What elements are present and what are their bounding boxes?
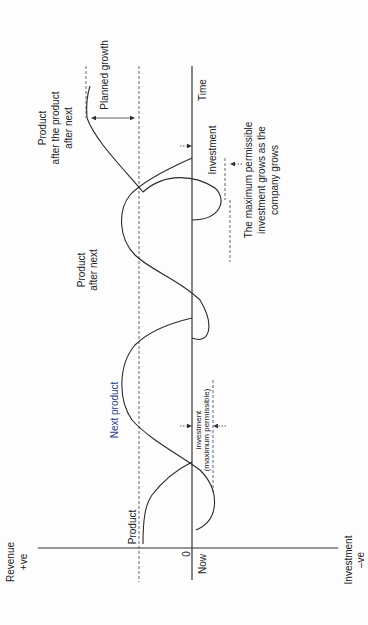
product-label: Product <box>127 510 138 545</box>
product-after-next-label-1: Product <box>76 253 87 288</box>
svg-text:Revenue: Revenue <box>5 542 16 582</box>
svg-text:Investment: Investment <box>343 535 354 584</box>
svg-text:–ve: –ve <box>355 552 366 569</box>
planned-growth-label: Planned growth <box>99 40 110 110</box>
investment-max-label-2: (maximum permissible) <box>202 388 211 471</box>
origin-label: 0 <box>181 551 192 557</box>
investment-axis-label: Investment –ve <box>343 535 366 584</box>
product-after-next-label-2: after next <box>88 249 99 291</box>
product-after-after-next-label-1: Product <box>37 111 48 146</box>
now-label: Now <box>197 553 208 574</box>
product-after-after-next-label-2: after the product <box>50 91 61 164</box>
revenue-axis-label: Revenue +ve <box>5 542 29 582</box>
next-product-label: Next product <box>109 381 120 438</box>
product-curve <box>143 462 192 544</box>
time-label: Time <box>197 79 208 101</box>
svg-text:+ve: +ve <box>18 553 29 570</box>
note-label-3: company grows <box>269 145 280 215</box>
investment-limit-dashed-line <box>213 158 230 492</box>
investment-arrows <box>180 146 242 426</box>
product-lifecycle-diagram: Revenue +ve Investment –ve 0 Now Time Pr… <box>0 0 368 625</box>
product-after-after-next-label-3: after next <box>63 107 74 149</box>
investment-label: Investment <box>207 125 218 174</box>
note-label-2: investment grows as the <box>256 126 267 234</box>
note-label-1: The maximum permissible <box>243 121 254 238</box>
product-after-next-curve <box>122 158 209 339</box>
